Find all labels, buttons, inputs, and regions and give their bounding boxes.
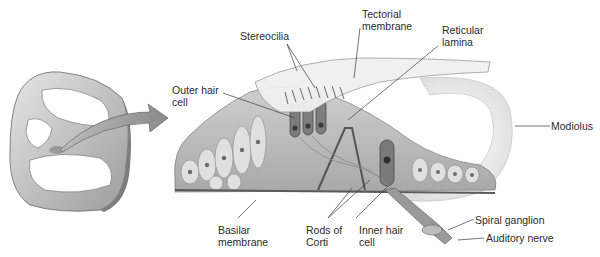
label-inner-hair-cell: Inner hair cell xyxy=(359,224,403,248)
label-reticular-lamina: Reticular lamina xyxy=(442,24,483,48)
label-basilar-membrane: Basilar membrane xyxy=(218,224,268,248)
organ-of-corti-tissue xyxy=(175,87,496,244)
label-modiolus: Modiolus xyxy=(551,120,593,132)
spiral-ganglion xyxy=(422,225,442,235)
label-tectorial-membrane: Tectorial membrane xyxy=(362,8,412,32)
label-auditory-nerve: Auditory nerve xyxy=(486,232,554,244)
label-stereocilia: Stereocilia xyxy=(240,30,289,42)
organ-of-corti-diagram: Stereocilia Tectorial membrane Reticular… xyxy=(0,0,600,257)
label-rods-of-corti: Rods of Corti xyxy=(306,224,342,248)
label-outer-hair-cell: Outer hair cell xyxy=(172,84,219,108)
label-spiral-ganglion: Spiral ganglion xyxy=(475,214,544,226)
